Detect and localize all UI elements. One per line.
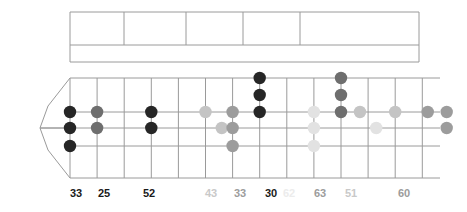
note-dot-14 (254, 106, 266, 118)
note-dot-4 (91, 122, 103, 134)
fret-label-7: 63 (314, 188, 326, 199)
note-dot-22 (370, 122, 382, 134)
note-dot-19 (335, 89, 347, 101)
fret-label-1: 25 (98, 188, 110, 199)
diagram-canvas: 33255243333062635160 (0, 0, 467, 212)
note-dot-23 (389, 106, 401, 118)
note-dot-2 (64, 140, 76, 152)
fret-label-5: 30 (265, 188, 277, 199)
note-dot-9 (226, 106, 238, 118)
fret-label-8: 51 (345, 188, 357, 199)
note-dot-8 (216, 122, 228, 134)
note-dot-7 (199, 106, 211, 118)
note-dot-18 (335, 72, 347, 84)
note-dot-6 (145, 122, 157, 134)
note-dot-24 (422, 106, 434, 118)
fret-label-4: 33 (234, 188, 246, 199)
upper-band-group (70, 12, 419, 62)
fret-label-6: 62 (283, 188, 295, 199)
fret-label-0: 33 (70, 188, 82, 199)
note-dot-1 (64, 122, 76, 134)
fret-label-2: 52 (143, 188, 155, 199)
note-dot-20 (335, 106, 347, 118)
note-dot-5 (145, 106, 157, 118)
note-dot-0 (64, 106, 76, 118)
fret-label-9: 60 (398, 188, 410, 199)
fretboard-svg (0, 0, 467, 212)
note-dot-3 (91, 106, 103, 118)
note-dot-10 (226, 122, 238, 134)
note-dot-11 (226, 140, 238, 152)
note-dot-15 (308, 106, 320, 118)
note-dot-17 (308, 140, 320, 152)
note-dot-25 (440, 106, 452, 118)
note-dot-13 (254, 89, 266, 101)
fret-label-3: 43 (205, 188, 217, 199)
note-dot-21 (354, 106, 366, 118)
note-dot-26 (440, 122, 452, 134)
note-dot-12 (254, 72, 266, 84)
note-dot-16 (308, 122, 320, 134)
